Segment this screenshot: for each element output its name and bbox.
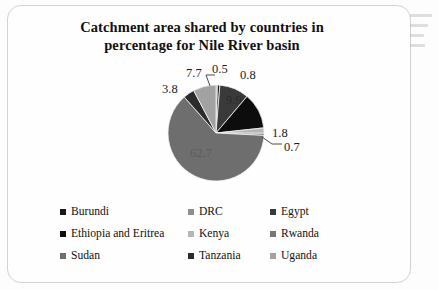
legend-item: Egypt	[270, 206, 352, 218]
scan-artifact	[410, 14, 432, 68]
legend-swatch	[60, 231, 66, 237]
legend-item: Uganda	[270, 250, 352, 262]
legend-label: Egypt	[281, 206, 309, 218]
data-label-tanzania: 3.8	[162, 82, 178, 97]
legend-swatch	[60, 253, 66, 259]
pie-slices	[168, 85, 264, 181]
legend-label: Tanzania	[199, 250, 241, 262]
legend-swatch	[270, 209, 276, 215]
legend-label: Rwanda	[281, 228, 319, 240]
chart-title: Catchment area shared by countries in pe…	[34, 18, 370, 54]
data-label-rwanda: 0.7	[284, 140, 300, 155]
legend-label: DRC	[199, 206, 223, 218]
legend-item: Tanzania	[188, 250, 270, 262]
data-label-drc: 0.5	[212, 62, 228, 77]
legend-label: Burundi	[71, 206, 109, 218]
legend-item: Sudan	[60, 250, 188, 262]
chart-image: Catchment area shared by countries in pe…	[0, 0, 438, 290]
legend-label: Sudan	[71, 250, 100, 262]
data-label-sudan: 62.7	[190, 146, 212, 161]
legend-swatch	[188, 253, 194, 259]
legend-swatch	[188, 231, 194, 237]
legend-label: Kenya	[199, 228, 229, 240]
legend-item: Burundi	[60, 206, 188, 218]
legend-swatch	[60, 209, 66, 215]
legend-label: Uganda	[281, 250, 317, 262]
chart-legend: BurundiDRCEgyptEthiopia and EritreaKenya…	[60, 206, 352, 262]
legend-item: DRC	[188, 206, 270, 218]
chart-title-line-2: percentage for Nile River basin	[34, 36, 370, 54]
legend-swatch	[270, 231, 276, 237]
data-label-uganda: 7.7	[186, 66, 202, 81]
legend-swatch	[188, 209, 194, 215]
legend-swatch	[270, 253, 276, 259]
legend-item: Rwanda	[270, 228, 352, 240]
data-label-egypt: 9.9	[226, 93, 242, 108]
legend-item: Ethiopia and Eritrea	[60, 228, 188, 240]
chart-title-line-1: Catchment area shared by countries in	[34, 18, 370, 36]
legend-item: Kenya	[188, 228, 270, 240]
data-label-kenya: 1.8	[272, 126, 288, 141]
data-label-ethiopia: 12.1	[234, 111, 256, 126]
legend-label: Ethiopia and Eritrea	[71, 228, 164, 240]
data-label-burundi: 0.8	[240, 68, 256, 83]
